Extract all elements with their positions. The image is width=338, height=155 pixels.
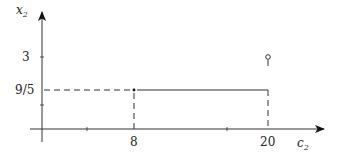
chart: x2 3 9/5 8 20 c2 [0,0,338,155]
x-axis-label: c2 [297,136,309,152]
filled-dot-8 [133,89,136,92]
y-axis-label: x2 [16,3,28,19]
ytick-label-3: 3 [22,50,30,64]
open-circle-20 [266,55,271,60]
ytick-label-9-5: 9/5 [15,83,34,97]
xtick-label-20: 20 [260,135,275,149]
xtick-label-8: 8 [130,135,138,149]
